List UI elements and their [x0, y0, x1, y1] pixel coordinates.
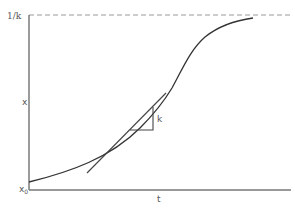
- y-axis-label: x: [22, 98, 27, 107]
- origin-subscript: 0: [24, 188, 28, 195]
- sigmoid-curve: [29, 18, 253, 182]
- x-axis-label: t: [157, 195, 161, 204]
- asymptote-label: 1/k: [7, 12, 21, 21]
- origin-label: x0: [19, 185, 28, 195]
- tangent-line: [87, 93, 166, 173]
- slope-label: k: [157, 115, 162, 124]
- logistic-diagram: [0, 0, 295, 211]
